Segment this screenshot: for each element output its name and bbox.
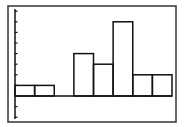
histogram-bar (15, 85, 35, 96)
histogram-bar (74, 54, 94, 96)
histogram-bar (133, 75, 153, 96)
histogram-bars (15, 22, 172, 96)
screen-frame (8, 6, 176, 122)
histogram-chart (0, 0, 188, 127)
histogram-bar (152, 75, 172, 96)
calculator-histogram-screen (0, 0, 188, 127)
histogram-bar (113, 22, 133, 96)
histogram-bar (94, 64, 114, 96)
y-axis (15, 9, 18, 119)
histogram-bar (35, 85, 55, 96)
